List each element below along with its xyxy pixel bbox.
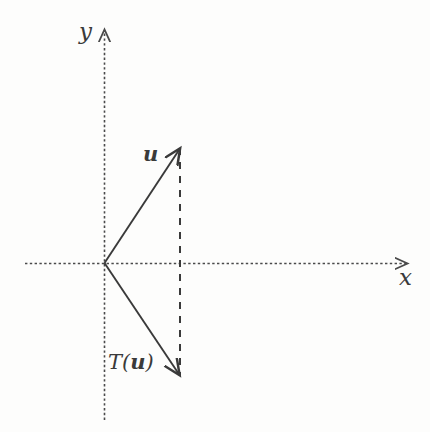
vector-t-of-u-label: T(u) (108, 349, 154, 374)
y-axis-label: y (79, 18, 92, 44)
vector-u (105, 150, 180, 263)
diagram-canvas (0, 0, 430, 432)
x-axis-label: x (399, 264, 412, 290)
t-of-u-suffix: ) (145, 350, 153, 374)
t-of-u-variable: u (130, 349, 145, 374)
vector-u-label: u (143, 141, 158, 166)
t-of-u-prefix: T( (108, 350, 130, 374)
vector-diagram-figure: y x u T(u) (0, 0, 430, 432)
